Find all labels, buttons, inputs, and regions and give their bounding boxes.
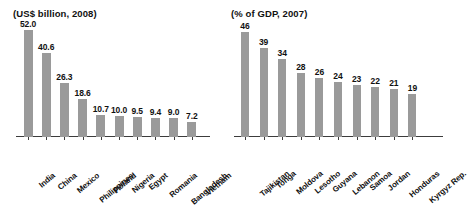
bar <box>334 82 342 137</box>
x-axis-tick <box>338 137 339 140</box>
x-axis-tick <box>245 137 246 140</box>
x-axis-tick <box>357 137 358 140</box>
bar-value-label: 26.3 <box>50 72 78 82</box>
bar-value-label: 18.6 <box>69 88 97 98</box>
bar <box>151 118 160 137</box>
x-axis-category-label: Mexico <box>76 171 102 195</box>
bar-value-label: 52.0 <box>14 19 42 29</box>
bar-value-label: 39 <box>250 37 278 47</box>
x-axis-tick <box>101 137 102 140</box>
bar <box>115 116 124 137</box>
bar <box>42 53 51 137</box>
chart-panel-remittances-usd: (US$ billion, 2008) 52.0India40.6China26… <box>0 0 218 192</box>
x-axis-tick <box>46 137 47 140</box>
bar <box>390 89 398 137</box>
x-axis-tick <box>412 137 413 140</box>
bar-value-label: 7.2 <box>178 111 206 121</box>
bar-value-label: 40.6 <box>32 42 60 52</box>
bar-value-label: 34 <box>268 48 296 58</box>
bar <box>169 118 178 137</box>
chart-panel-remittances-gdp: (% of GDP, 2007) 46Tajikistan39Tonga34Mo… <box>218 0 436 192</box>
plot-area-right: 46Tajikistan39Tonga34Moldova28Lesotho26G… <box>218 0 436 192</box>
bar <box>315 78 323 137</box>
x-axis-tick <box>301 137 302 140</box>
x-axis-tick <box>28 137 29 140</box>
x-axis-tick <box>119 137 120 140</box>
bar <box>133 117 142 137</box>
bar <box>187 122 196 137</box>
bar <box>241 32 249 137</box>
x-axis-tick <box>83 137 84 140</box>
bar <box>278 59 286 137</box>
bar <box>297 73 305 137</box>
x-axis-tick <box>394 137 395 140</box>
x-axis-category-label: India <box>37 171 57 190</box>
x-axis-tick <box>264 137 265 140</box>
bar <box>371 87 379 137</box>
x-axis-tick <box>174 137 175 140</box>
bar <box>260 48 268 137</box>
x-axis-tick <box>319 137 320 140</box>
bar <box>60 83 69 137</box>
x-axis-tick <box>282 137 283 140</box>
x-axis-tick <box>137 137 138 140</box>
x-axis-tick <box>64 137 65 140</box>
x-axis-tick <box>192 137 193 140</box>
x-axis-tick <box>155 137 156 140</box>
bar <box>78 99 87 137</box>
bar <box>408 94 416 137</box>
bar-value-label: 46 <box>231 21 259 31</box>
bar <box>96 115 105 137</box>
x-axis-tick <box>375 137 376 140</box>
bar-value-label: 19 <box>398 83 426 93</box>
bar <box>24 30 33 137</box>
bar <box>353 85 361 138</box>
plot-area-left: 52.0India40.6China26.3Mexico18.6Philippi… <box>0 0 218 192</box>
